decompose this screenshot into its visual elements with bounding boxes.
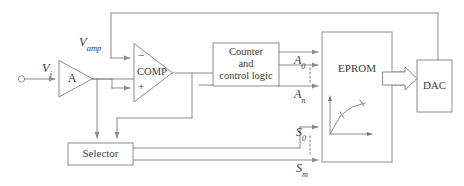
wire-to-comparator-plus (92, 79, 130, 88)
signal-label-s0: S0 (296, 126, 306, 142)
wire-vamp-to-comparator-minus (111, 13, 130, 58)
comparator-minus-sign: − (138, 50, 144, 61)
input-terminal-icon (18, 76, 24, 82)
eprom-block-label: EPROM (322, 62, 392, 74)
signal-label-a0: A0 (294, 54, 305, 70)
signal-label-an: An (294, 88, 305, 104)
comparator-label: COMP (134, 66, 170, 78)
block-diagram-canvas: Vi Vamp A COMP − + Counter and control l… (0, 0, 464, 186)
dac-block-label: DAC (417, 79, 452, 91)
comparator-plus-sign: + (138, 81, 144, 92)
counter-label-line1: Counter (213, 46, 279, 58)
counter-label-line3: control logic (213, 70, 279, 82)
wire-select-bus (133, 127, 318, 160)
counter-block-label: Counter and control logic (213, 46, 279, 81)
signal-label-vi: Vi (42, 62, 52, 77)
counter-label-line2: and (213, 58, 279, 70)
signal-label-sm: Sm (296, 162, 308, 178)
signal-label-vamp: Vamp (79, 36, 101, 51)
amplifier-a-label: A (62, 72, 82, 85)
selector-block-label: Selector (68, 147, 133, 159)
eprom-block-shape (322, 32, 392, 162)
